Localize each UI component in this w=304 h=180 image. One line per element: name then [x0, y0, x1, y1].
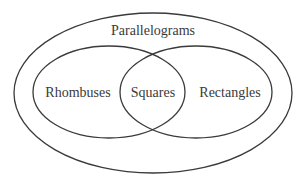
venn-diagram: Parallelograms Rhombuses Squares Rectang… — [0, 0, 304, 180]
rectangles-label: Rectangles — [199, 86, 260, 100]
squares-label: Squares — [131, 86, 175, 100]
rhombuses-label: Rhombuses — [45, 86, 110, 100]
parallelograms-label: Parallelograms — [111, 24, 195, 38]
